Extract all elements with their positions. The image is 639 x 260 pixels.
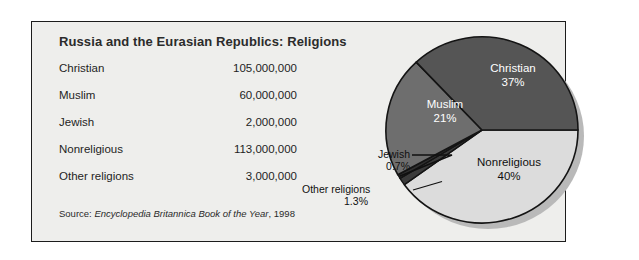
slice-pct-nonreligious: 40% xyxy=(497,170,520,182)
pie-chart: Christian 37% Muslim 21% Nonreligious 40… xyxy=(300,18,639,248)
row-label: Jewish xyxy=(59,116,94,128)
row-value: 3,000,000 xyxy=(246,170,297,182)
slice-pct-muslim: 21% xyxy=(433,112,456,124)
row-value: 2,000,000 xyxy=(246,116,297,128)
pie-chart-svg: Christian 37% Muslim 21% Nonreligious 40… xyxy=(300,18,639,248)
row-label: Other religions xyxy=(59,170,134,182)
table-row: Muslim 60,000,000 xyxy=(59,89,297,116)
table-row: Nonreligious 113,000,000 xyxy=(59,143,297,170)
row-label: Christian xyxy=(59,62,104,74)
callout-jewish-label: Jewish xyxy=(378,148,410,160)
callout-other-pct: 1.3% xyxy=(302,195,410,207)
slice-pct-christian: 37% xyxy=(501,76,524,88)
row-value: 105,000,000 xyxy=(233,62,297,74)
table-row: Jewish 2,000,000 xyxy=(59,116,297,143)
religions-figure: Russia and the Eurasian Republics: Relig… xyxy=(0,0,639,260)
callout-jewish-pct: 0.7% xyxy=(386,160,410,172)
religions-table: Christian 105,000,000 Muslim 60,000,000 … xyxy=(59,62,297,197)
slice-label-muslim: Muslim xyxy=(427,98,463,110)
callout-jewish: Jewish 0.7% xyxy=(338,148,410,173)
source-suffix: , 1998 xyxy=(269,208,295,219)
slice-label-christian: Christian xyxy=(490,62,535,74)
table-row: Other religions 3,000,000 xyxy=(59,170,297,197)
callout-other-label: Other religions xyxy=(302,183,370,195)
source-publication: Encyclopedia Britannica Book of the Year xyxy=(94,208,268,219)
row-value: 113,000,000 xyxy=(234,143,297,155)
slice-label-nonreligious: Nonreligious xyxy=(477,156,541,168)
row-value: 60,000,000 xyxy=(239,89,297,101)
row-label: Nonreligious xyxy=(59,143,123,155)
source-prefix: Source: xyxy=(59,208,94,219)
callout-other-religions: Other religions 1.3% xyxy=(302,183,410,208)
row-label: Muslim xyxy=(59,89,95,101)
table-row: Christian 105,000,000 xyxy=(59,62,297,89)
source-note: Source: Encyclopedia Britannica Book of … xyxy=(59,208,295,219)
